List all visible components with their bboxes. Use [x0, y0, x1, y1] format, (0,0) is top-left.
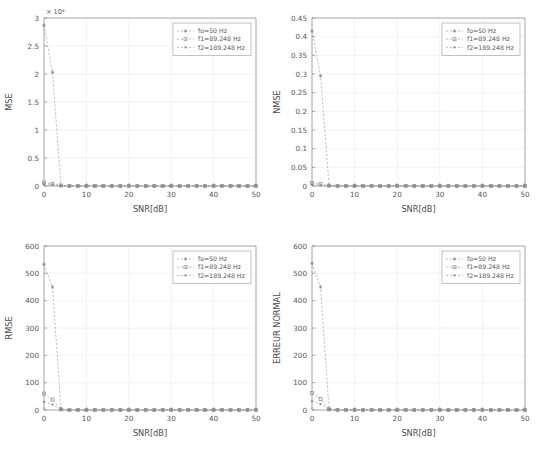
plot-nmse: 0102030405000.050.10.150.20.250.30.350.4… — [268, 0, 537, 228]
x-axis-title: SNR[dB] — [133, 428, 167, 438]
y-tick-label: 0 — [302, 182, 307, 191]
x-tick-label: 0 — [310, 190, 315, 199]
dot-marker — [229, 409, 231, 411]
data-series — [43, 181, 258, 187]
dot-marker — [119, 185, 121, 187]
dot-marker — [77, 409, 79, 411]
x-tick-label: 50 — [520, 414, 530, 423]
dot-marker — [422, 185, 424, 187]
y-tick-label: 200 — [25, 351, 39, 360]
star-marker — [310, 262, 313, 265]
dot-marker — [187, 185, 189, 187]
star-marker — [184, 29, 187, 32]
dot-marker — [371, 185, 373, 187]
dot-marker — [51, 403, 53, 405]
dot-marker — [136, 185, 138, 187]
y-tick-label: 0.2 — [296, 107, 307, 116]
data-series — [43, 401, 257, 411]
y-tick-label: 2.5 — [28, 42, 39, 51]
x-axis-title: SNR[dB] — [401, 428, 435, 438]
x-tick-label: 40 — [478, 414, 488, 423]
dot-marker — [221, 185, 223, 187]
plot-rmse: 010203040500100200300400500600SNR[dB]RMS… — [0, 228, 268, 452]
dot-marker — [119, 409, 121, 411]
legend: fo=50 Hzf1=89.248 Hzf2=189.248 Hz — [173, 23, 251, 56]
dot-marker — [153, 409, 155, 411]
dot-marker — [379, 185, 381, 187]
dot-marker — [439, 185, 441, 187]
chart-panel-rmse: 010203040500100200300400500600SNR[dB]RMS… — [0, 228, 268, 452]
y-tick-label: 0.05 — [291, 163, 307, 172]
y-tick-label: 1.5 — [28, 98, 39, 107]
dot-marker — [515, 185, 517, 187]
star-marker — [319, 74, 322, 77]
dot-marker — [60, 409, 62, 411]
dot-marker — [413, 409, 415, 411]
dot-marker — [354, 185, 356, 187]
y-tick-label: 500 — [293, 269, 307, 278]
dot-marker — [246, 185, 248, 187]
plot-mse: 0102030405000.511.522.53× 10⁵SNR[dB]MSEf… — [0, 0, 268, 228]
y-tick-label: 0.1 — [296, 144, 307, 153]
dot-marker — [170, 409, 172, 411]
x-tick-label: 40 — [209, 414, 219, 423]
dot-marker — [85, 185, 87, 187]
x-axis-title: SNR[dB] — [133, 204, 167, 214]
x-tick-label: 10 — [350, 190, 360, 199]
dot-marker — [405, 185, 407, 187]
dot-marker — [490, 409, 492, 411]
dot-marker — [102, 409, 104, 411]
dot-marker — [196, 409, 198, 411]
legend: fo=50 Hzf1=89.248 Hzf2=189.248 Hz — [442, 251, 520, 284]
dot-marker — [422, 409, 424, 411]
dot-marker — [77, 185, 79, 187]
x-tick-label: 20 — [393, 190, 403, 199]
legend-item-label: f2=189.248 Hz — [467, 44, 514, 51]
dot-marker — [336, 185, 338, 187]
data-series — [43, 183, 257, 187]
y-tick-label: 600 — [25, 242, 39, 251]
dot-marker — [111, 185, 113, 187]
legend-item-label: f2=189.248 Hz — [467, 272, 514, 279]
legend-item-label: f1=89.248 Hz — [198, 263, 241, 270]
dot-marker — [345, 185, 347, 187]
dot-marker — [362, 409, 364, 411]
star-marker — [184, 257, 187, 260]
dot-marker — [238, 409, 240, 411]
dot-marker — [60, 185, 62, 187]
x-tick-label: 20 — [124, 414, 134, 423]
dot-marker — [481, 409, 483, 411]
y-axis-title: MSE — [4, 93, 14, 110]
y-tick-label: 400 — [25, 296, 39, 305]
plot-erreur-normal: 010203040500100200300400500600SNR[dB]ERR… — [268, 228, 537, 452]
dot-marker — [396, 185, 398, 187]
dot-marker — [481, 185, 483, 187]
star-marker — [51, 285, 54, 288]
dot-marker — [490, 185, 492, 187]
dot-marker — [68, 409, 70, 411]
y-tick-label: 0 — [302, 406, 307, 415]
dot-marker — [204, 409, 206, 411]
x-tick-label: 30 — [435, 414, 445, 423]
y-tick-label: 100 — [25, 378, 39, 387]
dot-marker — [111, 409, 113, 411]
y-tick-label: 0.35 — [291, 51, 307, 60]
data-series — [311, 392, 527, 412]
y-tick-label: 0.4 — [296, 32, 308, 41]
dot-marker — [498, 409, 500, 411]
dot-marker — [413, 185, 415, 187]
chart-panel-erreur-normal: 010203040500100200300400500600SNR[dB]ERR… — [268, 228, 537, 452]
legend-item-label: f1=89.248 Hz — [467, 263, 510, 270]
legend-item-label: fo=50 Hz — [198, 27, 227, 34]
dot-marker — [43, 401, 45, 403]
y-tick-label: 0.3 — [296, 70, 307, 79]
x-tick-label: 40 — [478, 190, 488, 199]
x-tick-label: 30 — [167, 414, 177, 423]
y-tick-label: 300 — [293, 324, 307, 333]
dot-marker — [388, 185, 390, 187]
y-axis-title: NMSE — [272, 90, 282, 114]
y-tick-label: 500 — [25, 269, 39, 278]
dot-marker — [456, 185, 458, 187]
y-tick-label: 3 — [34, 14, 39, 23]
dot-marker — [153, 185, 155, 187]
